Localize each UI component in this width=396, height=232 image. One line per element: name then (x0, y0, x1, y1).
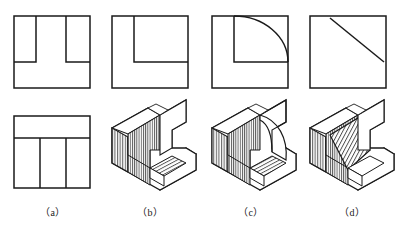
drawing-canvas (0, 0, 396, 232)
solid-b-isometric (112, 100, 196, 190)
view-d-outline (310, 16, 386, 88)
solid-d-isometric (310, 100, 394, 190)
view-a-front (14, 16, 90, 88)
caption-a: （a） (40, 204, 66, 219)
view-a-front-outline (14, 16, 90, 88)
solid-c-isometric (212, 100, 296, 190)
view-a-top-outline (14, 116, 90, 188)
view-a-top (14, 116, 90, 188)
caption-b: （b） (137, 204, 163, 219)
view-b-outline (112, 16, 188, 88)
view-c-outline (212, 16, 288, 88)
column-d-view (310, 16, 386, 88)
column-b-view (112, 16, 188, 88)
column-c-view (212, 16, 288, 88)
caption-c: （c） (238, 204, 264, 219)
technical-drawing-figure: （a） （b） （c） （d） (0, 0, 396, 232)
column-a-views (14, 16, 90, 188)
caption-d: （d） (339, 204, 365, 219)
